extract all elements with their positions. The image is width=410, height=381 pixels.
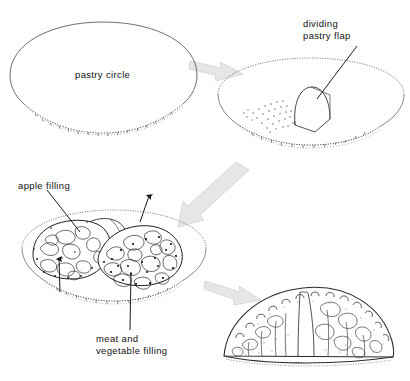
arrow-stage3-to-stage4 (204, 281, 261, 305)
stage-1-pastry-circle (10, 22, 197, 136)
stipple-field (243, 100, 293, 132)
diagram-canvas (0, 0, 410, 381)
pointer-fold-direction-up (140, 196, 149, 222)
pasty-assembly-diagram: pastry circle dividing pastry flap apple… (0, 0, 410, 381)
apple-filling-mass (33, 220, 110, 280)
arrow-stage2-to-stage3 (178, 162, 249, 227)
stage-3-filled-pastry (22, 190, 206, 330)
stage-2-dividing-flap (218, 46, 404, 148)
meat-filling-mass (98, 226, 182, 290)
leader-dividing-flap (317, 46, 357, 99)
